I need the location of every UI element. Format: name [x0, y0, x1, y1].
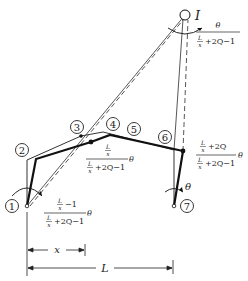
support-1 — [25, 204, 29, 208]
svg-text:+2Q−1: +2Q−1 — [95, 163, 125, 172]
node-label-6: 6 — [162, 132, 168, 143]
hinge-3 — [79, 134, 83, 138]
node-label-1: 1 — [9, 201, 15, 212]
svg-text:L: L — [46, 214, 51, 221]
frame-mechanism-diagram: I 1 2 3 4 5 6 7 θ L x +2Q−1 L x — [0, 0, 248, 281]
node-label-4: 4 — [110, 119, 116, 130]
svg-text:θ: θ — [87, 209, 92, 218]
rotation-label-7: θ — [185, 181, 191, 192]
svg-text:+2Q−1: +2Q−1 — [205, 159, 235, 168]
svg-text:L: L — [87, 160, 92, 167]
svg-text:x: x — [201, 146, 205, 153]
svg-text:θ: θ — [216, 21, 221, 30]
svg-text:x: x — [106, 150, 110, 157]
svg-text:θ: θ — [129, 155, 134, 164]
svg-text:x: x — [88, 167, 92, 174]
node-label-2: 2 — [19, 145, 25, 156]
hinge-3-deformed — [89, 140, 94, 145]
rotation-formula-3: L x L x +2Q−1 θ — [86, 143, 134, 174]
node-label-3: 3 — [74, 122, 80, 133]
instant-center-label: I — [194, 8, 201, 23]
svg-text:−1: −1 — [65, 200, 77, 209]
dimension-L-label: L — [100, 262, 108, 275]
node-label-7: 7 — [184, 201, 190, 212]
rotation-formula-6: L x +2Q L x +2Q−1 θ — [196, 139, 243, 170]
svg-text:θ: θ — [238, 151, 243, 160]
instant-center-lines — [27, 15, 188, 206]
rotation-formula-I: θ L x +2Q−1 — [196, 21, 240, 48]
svg-text:L: L — [57, 197, 62, 204]
arrowhead-icon — [179, 187, 183, 192]
svg-text:L: L — [197, 34, 202, 41]
hinge-6-deformed — [181, 149, 186, 154]
svg-text:+2Q: +2Q — [208, 142, 227, 151]
svg-text:x: x — [47, 221, 51, 228]
rotation-formula-1: L x −1 L x +2Q−1 θ — [44, 197, 92, 228]
svg-text:+2Q−1: +2Q−1 — [205, 37, 235, 46]
svg-text:L: L — [197, 156, 202, 163]
svg-text:L: L — [200, 139, 205, 146]
svg-text:x: x — [198, 41, 202, 48]
dimension-x-label: x — [54, 244, 60, 255]
svg-text:+2Q−1: +2Q−1 — [54, 217, 84, 226]
support-7 — [172, 204, 176, 208]
node-label-5: 5 — [131, 124, 137, 135]
instant-center-marker — [180, 10, 190, 20]
svg-text:x: x — [198, 163, 202, 170]
svg-text:x: x — [58, 204, 62, 211]
svg-text:L: L — [105, 143, 110, 150]
